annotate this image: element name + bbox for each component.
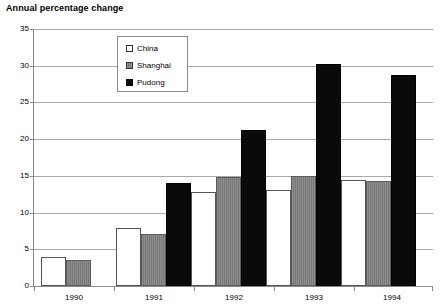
x-axis-label-1991: 1991	[124, 293, 184, 302]
x-axis-label-1993: 1993	[284, 293, 344, 302]
chart-container: Annual percentage change 35 30 25 20 15 …	[0, 0, 443, 308]
x-tick-4	[354, 287, 355, 291]
bar-1991-shanghai[interactable]	[141, 234, 166, 286]
legend-label-china: China	[137, 44, 158, 53]
y-tick-20	[30, 139, 34, 140]
bar-group-1990	[41, 29, 114, 286]
y-tick-5	[30, 249, 34, 250]
y-tick-label-35: 35	[5, 25, 29, 33]
y-tick-label-0: 0	[5, 282, 29, 290]
x-tick-1	[114, 287, 115, 291]
y-tick-label-30: 30	[5, 62, 29, 70]
bar-1993-shanghai[interactable]	[291, 176, 316, 286]
bar-1990-china[interactable]	[41, 257, 66, 286]
y-axis: 35 30 25 20 15 10 5 0	[0, 29, 29, 286]
bar-group-1994	[341, 29, 414, 286]
black-square-icon	[126, 79, 133, 86]
y-tick-30	[30, 66, 34, 67]
y-tick-label-20: 20	[5, 135, 29, 143]
x-axis-label-1994: 1994	[362, 293, 422, 302]
x-tick-2	[194, 287, 195, 291]
bar-1991-pudong[interactable]	[166, 183, 191, 286]
y-tick-10	[30, 213, 34, 214]
bar-1993-pudong[interactable]	[316, 64, 341, 287]
bar-group-1992	[191, 29, 264, 286]
x-tick-5	[432, 287, 433, 291]
bar-1992-shanghai[interactable]	[216, 177, 241, 286]
gray-square-icon	[126, 62, 133, 69]
bar-1994-shanghai[interactable]	[366, 181, 391, 286]
y-tick-label-25: 25	[5, 98, 29, 106]
bar-1994-china[interactable]	[341, 180, 366, 287]
y-tick-25	[30, 102, 34, 103]
x-axis-label-1990: 1990	[44, 293, 104, 302]
bar-1992-china[interactable]	[191, 192, 216, 286]
y-tick-15	[30, 176, 34, 177]
bar-1990-shanghai[interactable]	[66, 260, 91, 286]
legend-item-china[interactable]: China	[126, 44, 158, 53]
legend-item-shanghai[interactable]: Shanghai	[126, 61, 171, 70]
y-tick-35	[30, 29, 34, 30]
y-tick-label-5: 5	[5, 245, 29, 253]
legend: China Shanghai Pudong	[117, 36, 188, 92]
legend-label-pudong: Pudong	[137, 78, 165, 87]
y-tick-label-10: 10	[5, 209, 29, 217]
x-tick-3	[274, 287, 275, 291]
x-tick-0	[34, 287, 35, 291]
bar-1992-pudong[interactable]	[241, 130, 266, 286]
x-axis-label-1992: 1992	[204, 293, 264, 302]
white-square-icon	[126, 45, 133, 52]
bar-1991-china[interactable]	[116, 228, 141, 286]
y-tick-label-15: 15	[5, 172, 29, 180]
legend-label-shanghai: Shanghai	[137, 61, 171, 70]
plot-area	[33, 29, 433, 287]
bar-1993-china[interactable]	[266, 190, 291, 286]
chart-title: Annual percentage change	[6, 3, 123, 13]
bar-group-1993	[266, 29, 339, 286]
legend-item-pudong[interactable]: Pudong	[126, 78, 165, 87]
bar-1994-pudong[interactable]	[391, 75, 416, 286]
